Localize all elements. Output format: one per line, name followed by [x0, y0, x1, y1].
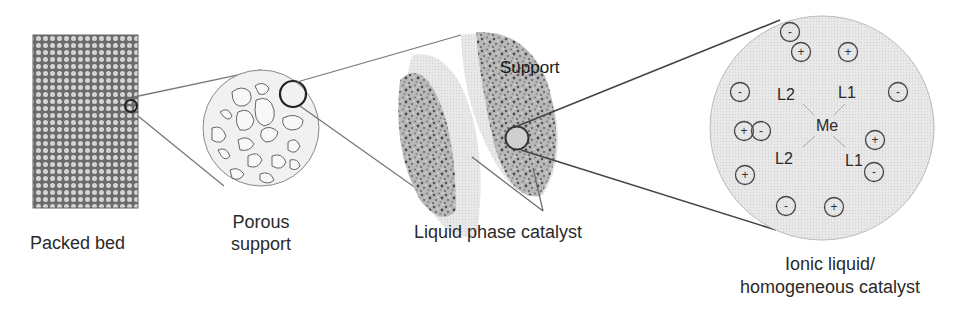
ion-sign: -: [896, 85, 900, 99]
zoom-circle-liquid: [506, 127, 529, 150]
label-packed-bed: Packed bed: [30, 232, 125, 254]
ion-sign: +: [871, 133, 878, 147]
label-ligand-top-right: L1: [838, 82, 856, 104]
label-ligand-bottom-left: L2: [775, 148, 793, 170]
label-ionic-liquid-1: Ionic liquid/: [720, 253, 940, 275]
packed-bed: [33, 35, 138, 208]
label-porous-support-2: support: [218, 233, 304, 255]
ion-sign: +: [830, 200, 837, 214]
ion-sign: +: [741, 168, 748, 182]
label-support: Support: [500, 57, 560, 79]
ion-sign: +: [844, 45, 851, 59]
ion-sign: +: [740, 124, 747, 138]
ion-sign: -: [784, 199, 788, 213]
label-porous-support-1: Porous: [218, 211, 304, 233]
porous-support: [203, 70, 319, 186]
ion-sign: +: [797, 45, 804, 59]
label-ligand-bottom-right: L1: [845, 150, 863, 172]
ion-sign: -: [759, 124, 763, 138]
label-liquid-phase-catalyst: Liquid phase catalyst: [414, 221, 582, 243]
ion-sign: -: [788, 25, 792, 39]
label-ionic-liquid-2: homogeneous catalyst: [720, 276, 940, 298]
label-ligand-top-left: L2: [777, 84, 795, 106]
ion-sign: -: [738, 85, 742, 99]
label-metal: Me: [816, 115, 838, 137]
ion-sign: -: [872, 165, 876, 179]
